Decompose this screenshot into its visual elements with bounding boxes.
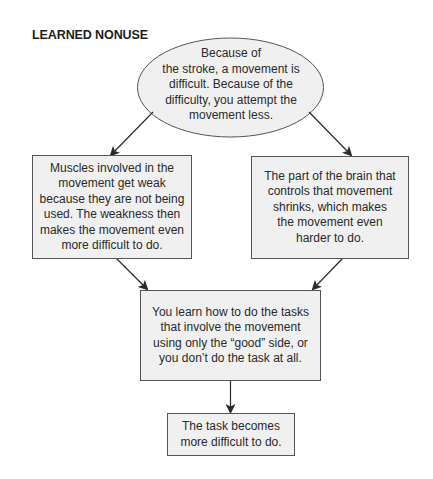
brain-line-2: controls that movement — [264, 184, 395, 200]
start-node: Because of the stroke, a movement is dif… — [140, 46, 322, 124]
learn-line-4: you don’t do the task at all. — [152, 351, 309, 367]
muscles-line-2: movement get weak — [40, 176, 185, 192]
result-line-2: more difficult to do. — [180, 435, 281, 451]
learn-node: You learn how to do the tasks that invol… — [140, 290, 321, 381]
brain-line-5: harder to do. — [264, 231, 395, 247]
start-line-5: movement less. — [140, 108, 322, 124]
muscles-line-6: more difficult to do. — [40, 238, 185, 254]
arrow-brain-to-learn — [313, 258, 343, 289]
start-line-1: Because of — [140, 46, 322, 62]
start-line-4: difficulty, you attempt the — [140, 93, 322, 109]
learn-line-3: using only the “good” side, or — [152, 336, 309, 352]
brain-line-1: The part of the brain that — [264, 169, 395, 185]
muscles-node: Muscles involved in the movement get wea… — [32, 155, 192, 259]
start-line-2: the stroke, a movement is — [140, 62, 322, 78]
brain-line-3: shrinks, which makes — [264, 200, 395, 216]
brain-node: The part of the brain that controls that… — [251, 156, 409, 259]
learn-line-2: that involve the movement — [152, 320, 309, 336]
muscles-line-1: Muscles involved in the — [40, 161, 185, 177]
arrow-muscles-to-learn — [116, 258, 147, 289]
start-line-3: difficult. Because of the — [140, 77, 322, 93]
muscles-line-3: because they are not being — [40, 192, 185, 208]
result-line-1: The task becomes — [180, 419, 281, 435]
brain-line-4: the movement even — [264, 215, 395, 231]
muscles-line-5: makes the movement even — [40, 223, 185, 239]
result-node: The task becomes more difficult to do. — [167, 413, 295, 456]
muscles-line-4: used. The weakness then — [40, 207, 185, 223]
learn-line-1: You learn how to do the tasks — [152, 305, 309, 321]
